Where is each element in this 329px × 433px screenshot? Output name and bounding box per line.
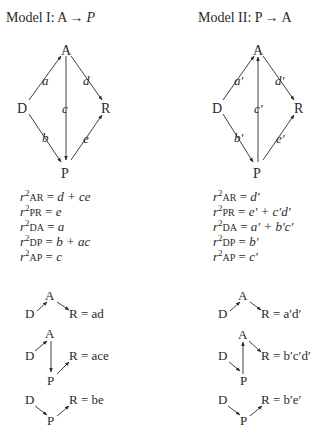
svg-text:Model I: A→P: Model I: A→P [6, 10, 95, 25]
model1-path-2-result: R = ace [69, 348, 109, 363]
model1-path-3-result: R = be [69, 392, 104, 407]
svg-text:b′: b′ [234, 130, 244, 145]
svg-text:b: b [42, 130, 49, 145]
node-a: A [61, 43, 72, 58]
model2-title: Model II: P→A [198, 10, 293, 25]
model2-edge-labels: a′ b′ c′ d′ e′ [234, 73, 285, 146]
model1-path-3: D P R [25, 392, 69, 428]
node-p: P [253, 166, 261, 181]
svg-text:D: D [25, 306, 34, 321]
model1-path-1: D A R R = ad [25, 288, 69, 321]
node-r: R [101, 101, 111, 116]
model2-path-3-result: R = b′e′ [261, 392, 302, 407]
svg-text:r2PR = e: r2PR = e [20, 203, 62, 219]
model1-path-1-result: R = ad [69, 306, 104, 321]
svg-text:r2PR = e′ + c′d′: r2PR = e′ + c′d′ [213, 203, 291, 219]
svg-text:r2AP = c: r2AP = c [20, 248, 62, 264]
model1-title: Model I: A→P [6, 10, 95, 25]
svg-text:r2DP = b′: r2DP = b′ [213, 233, 259, 249]
node-p: P [61, 166, 69, 181]
svg-text:P: P [47, 413, 54, 428]
node-d: D [17, 101, 27, 116]
model1-equations: r2AR = d + ce r2PR = e r2DA = a r2DP = b… [20, 188, 91, 264]
model2-path-1: D A R [218, 288, 261, 321]
node-r: R [294, 101, 304, 116]
svg-text:d: d [83, 73, 90, 88]
svg-text:r2AR = d′: r2AR = d′ [213, 188, 260, 204]
svg-text:r2DA = a′ + b′c′: r2DA = a′ + b′c′ [213, 218, 294, 234]
model1-path-2: D A P R [25, 326, 69, 388]
model2-path-1-result: R = a′d′ [261, 306, 302, 321]
svg-text:r2DA = a: r2DA = a [20, 218, 65, 234]
path-results: R = ad R = ace R = be R = a′d′ R = b′c′d… [69, 306, 311, 407]
diagram-canvas: Model I: A→P A D R P a b c d e r2AR = d … [0, 0, 329, 433]
node-d: D [212, 101, 222, 116]
svg-text:P: P [240, 413, 247, 428]
svg-text:d′: d′ [275, 73, 285, 88]
model2-path-3: D P R [218, 392, 262, 428]
svg-text:e: e [83, 131, 89, 146]
svg-text:a: a [42, 73, 49, 88]
node-a: A [253, 43, 264, 58]
model2-path-2: D A P R [218, 327, 261, 388]
svg-text:D: D [218, 348, 227, 363]
svg-text:D: D [25, 348, 34, 363]
svg-text:A: A [238, 327, 248, 342]
svg-text:A: A [45, 288, 55, 303]
svg-text:A: A [238, 288, 248, 303]
svg-text:a′: a′ [234, 73, 244, 88]
svg-text:D: D [218, 392, 227, 407]
svg-text:D: D [25, 392, 34, 407]
svg-text:r2AP = c′: r2AP = c′ [213, 248, 258, 264]
svg-text:c′: c′ [254, 101, 263, 116]
model2-path-2-result: R = b′c′d′ [261, 348, 311, 363]
svg-text:Model II: P→A: Model II: P→A [198, 10, 293, 25]
svg-text:P: P [47, 373, 54, 388]
svg-text:P: P [240, 373, 247, 388]
svg-text:c: c [62, 101, 68, 116]
model2-equations: r2AR = d′ r2PR = e′ + c′d′ r2DA = a′ + b… [213, 188, 294, 264]
svg-text:r2AR = d + ce: r2AR = d + ce [20, 188, 91, 204]
svg-text:A: A [45, 326, 55, 341]
svg-text:r2DP = b + ac: r2DP = b + ac [20, 233, 90, 249]
svg-text:D: D [218, 306, 227, 321]
svg-text:e′: e′ [276, 131, 285, 146]
